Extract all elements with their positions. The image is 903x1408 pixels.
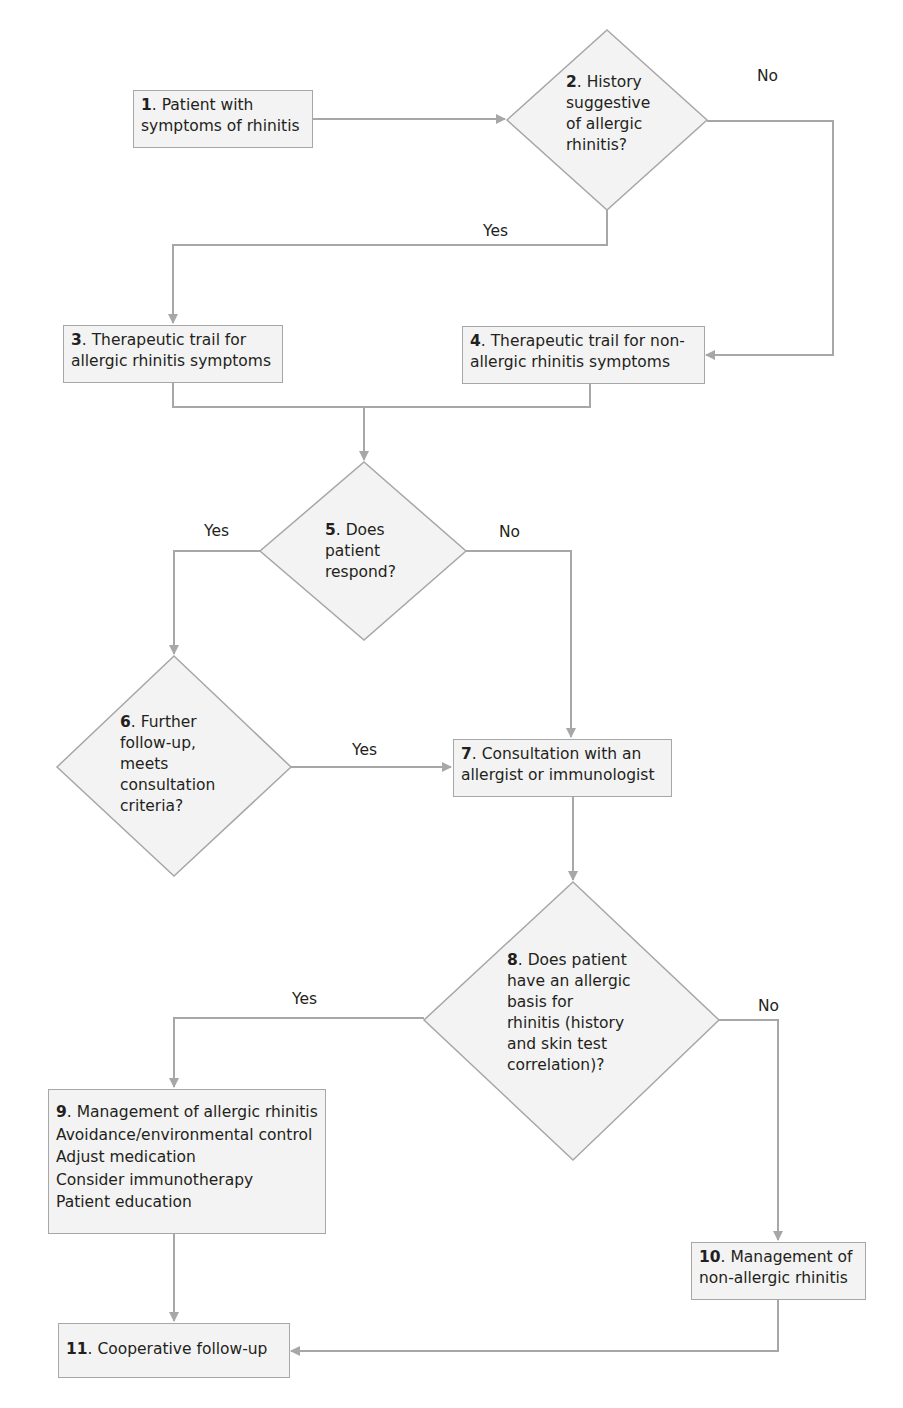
node-text: . History — [577, 73, 642, 91]
edge-label-n2-yes: Yes — [483, 222, 508, 240]
node-3-therapeutic-trail-allergic: 3. Therapeutic trail for allergic rhinit… — [63, 325, 283, 383]
node-text: follow-up, — [120, 734, 196, 752]
node-number: 5 — [325, 521, 336, 539]
node-text: . Does patient — [518, 951, 627, 969]
node-text: patient — [325, 542, 380, 560]
edge-label-n2-no: No — [757, 67, 778, 85]
node-number: 3 — [71, 331, 82, 349]
node-text: rhinitis? — [566, 136, 627, 154]
node-text: suggestive — [566, 94, 650, 112]
node-text: allergic rhinitis symptoms — [71, 352, 271, 370]
node-text: and skin test — [507, 1035, 607, 1053]
node-text: allergist or immunologist — [461, 766, 654, 784]
node-10-management-non-allergic: 10. Management of non-allergic rhinitis — [691, 1242, 866, 1300]
node-text: rhinitis (history — [507, 1014, 624, 1032]
node-7-consultation-allergist: 7. Consultation with an allergist or imm… — [453, 739, 672, 797]
node-2-history-suggestive: 2. History suggestive of allergic rhinit… — [566, 72, 650, 156]
node-number: 1 — [141, 96, 152, 114]
node-text: Patient education — [56, 1193, 192, 1211]
node-text: . Management of — [721, 1248, 853, 1266]
node-text: symptoms of rhinitis — [141, 117, 300, 135]
node-text: Consider immunotherapy — [56, 1171, 253, 1189]
node-text: basis for — [507, 993, 573, 1011]
node-text: Adjust medication — [56, 1148, 196, 1166]
node-text: . Therapeutic trail for — [82, 331, 246, 349]
node-text: meets — [120, 755, 168, 773]
node-text: . Therapeutic trail for non- — [481, 332, 685, 350]
node-number: 4 — [470, 332, 481, 350]
node-4-therapeutic-trail-non-allergic: 4. Therapeutic trail for non- allergic r… — [462, 326, 705, 384]
node-text: . Cooperative follow-up — [88, 1340, 268, 1358]
node-8-allergic-basis: 8. Does patient have an allergic basis f… — [507, 950, 631, 1076]
node-number: 9 — [56, 1103, 67, 1121]
edge-label-n8-yes: Yes — [292, 990, 317, 1008]
node-number: 2 — [566, 73, 577, 91]
node-number: 6 — [120, 713, 131, 731]
node-6-further-follow-up: 6. Further follow-up, meets consultation… — [120, 712, 215, 817]
node-text: respond? — [325, 563, 396, 581]
node-text: . Management of allergic rhinitis — [67, 1103, 318, 1121]
node-text: . Further — [131, 713, 197, 731]
edge-label-n6-yes: Yes — [352, 741, 377, 759]
node-text: . Consultation with an — [472, 745, 642, 763]
node-text: criteria? — [120, 797, 183, 815]
node-number: 10 — [699, 1248, 721, 1266]
node-number: 7 — [461, 745, 472, 763]
node-text: non-allergic rhinitis — [699, 1269, 848, 1287]
node-1-patient-with-symptoms: 1. Patient with symptoms of rhinitis — [133, 90, 313, 148]
edge-label-n5-no: No — [499, 523, 520, 541]
node-text: allergic rhinitis symptoms — [470, 353, 670, 371]
node-5-does-patient-respond: 5. Does patient respond? — [325, 520, 396, 583]
node-text: have an allergic — [507, 972, 631, 990]
edge-label-n5-yes: Yes — [204, 522, 229, 540]
node-11-cooperative-follow-up: 11. Cooperative follow-up — [58, 1323, 290, 1378]
node-text: of allergic — [566, 115, 642, 133]
node-text: correlation)? — [507, 1056, 604, 1074]
node-number: 8 — [507, 951, 518, 969]
node-text: consultation — [120, 776, 215, 794]
node-text: . Does — [336, 521, 385, 539]
node-number: 11 — [66, 1340, 88, 1358]
node-text: Avoidance/environmental control — [56, 1126, 312, 1144]
node-text: . Patient with — [152, 96, 254, 114]
edge-label-n8-no: No — [758, 997, 779, 1015]
node-9-management-allergic: 9. Management of allergic rhinitis Avoid… — [48, 1089, 326, 1234]
